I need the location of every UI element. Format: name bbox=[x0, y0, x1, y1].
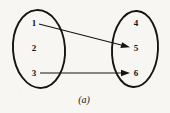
arrow-3-to-6-head bbox=[121, 70, 130, 76]
arrow-1-to-5-head bbox=[120, 42, 130, 48]
figure-container: 1 2 3 4 5 6 (a) bbox=[0, 0, 170, 113]
mapping-diagram: 1 2 3 4 5 6 (a) bbox=[0, 0, 170, 113]
element-label-5: 5 bbox=[134, 43, 139, 53]
element-label-3: 3 bbox=[32, 68, 37, 78]
figure-caption: (a) bbox=[78, 94, 90, 106]
element-label-2: 2 bbox=[32, 43, 37, 53]
left-set-ellipse bbox=[10, 8, 67, 89]
arrow-1-to-5-shaft bbox=[39, 24, 126, 46]
element-label-6: 6 bbox=[134, 68, 139, 78]
element-label-1: 1 bbox=[32, 18, 37, 28]
element-label-4: 4 bbox=[134, 18, 139, 28]
